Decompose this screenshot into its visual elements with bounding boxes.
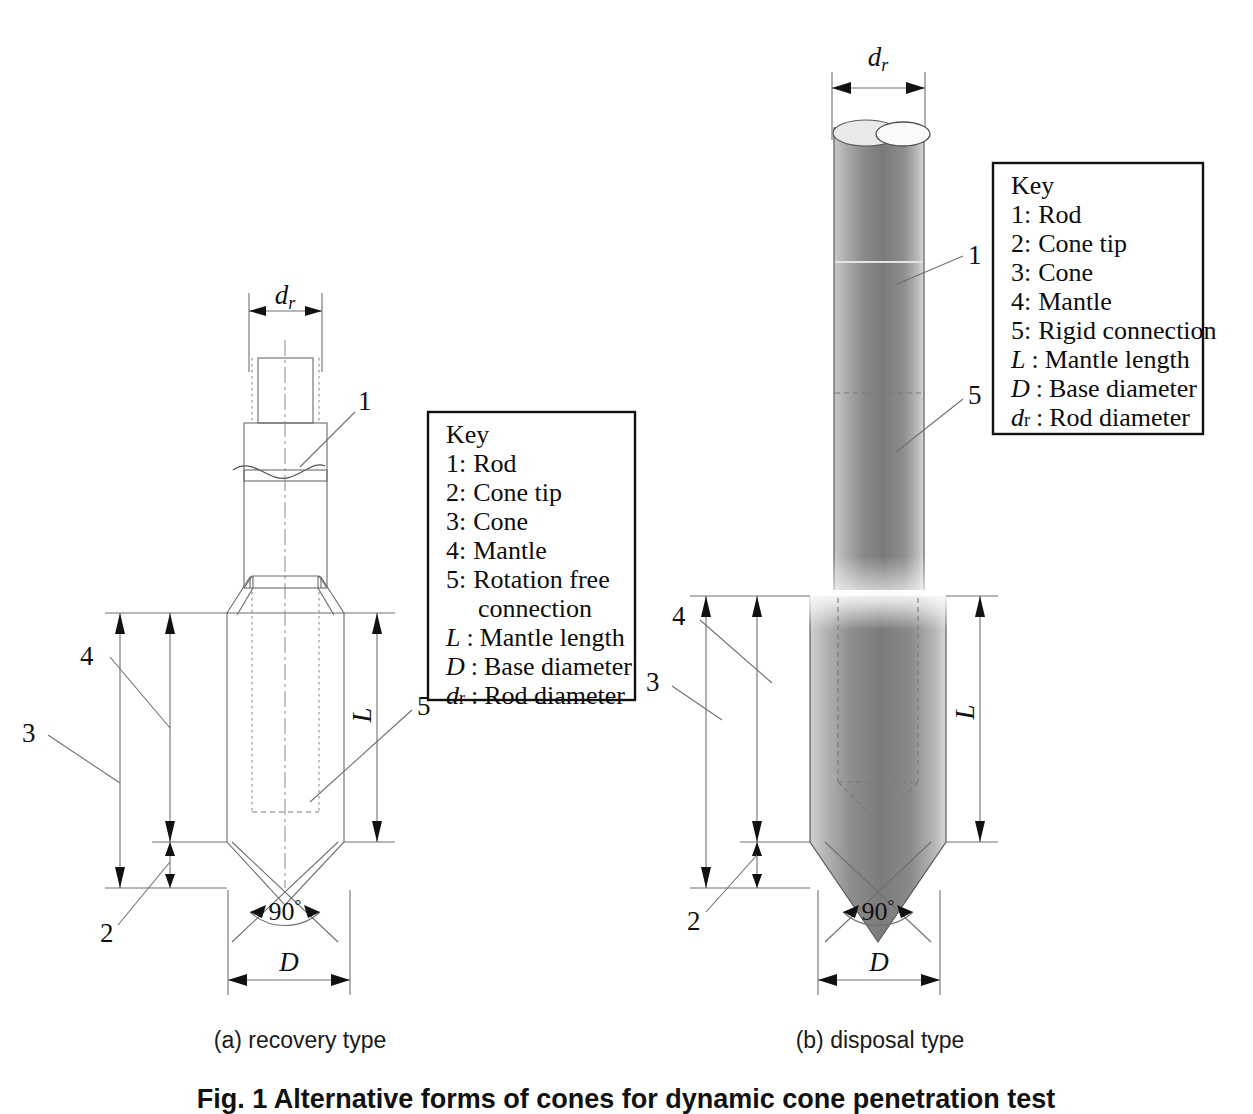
callout-label-4-b: 4 [672,601,686,631]
key-entry-b-1: 1:Rod [1011,200,1082,229]
svg-text:D:Base diameter: D:Base diameter [445,652,632,681]
callout-label-1-a: 1 [358,386,372,416]
callout-label-3-b: 3 [646,667,660,697]
svg-text:1:Rod: 1:Rod [446,449,517,478]
rod-top-ellipse-right-b [876,122,930,146]
figure-container: dr [0,0,1253,1114]
callout-label-5-b: 5 [968,380,982,410]
label-base-diameter-a: D [278,947,299,977]
svg-text:D:Base diameter: D:Base diameter [1010,374,1197,403]
label-mantle-length-b: L [950,704,980,720]
key-entry-a-dr: dr:Rod diameter [446,681,625,710]
figure-caption: Fig. 1 Alternative forms of cones for dy… [197,1084,1056,1114]
subcaption-b: (b) disposal type [796,1027,965,1053]
callout-label-1-b: 1 [968,240,982,270]
key-entry-b-5: 5:Rigid connection [1011,316,1217,345]
key-entry-a-L: L:Mantle length [445,623,625,652]
svg-text:2:Cone tip: 2:Cone tip [446,478,562,507]
svg-text:5:Rigid connection: 5:Rigid connection [1011,316,1217,345]
callout-label-3-a: 3 [22,718,36,748]
key-title-a: Key [446,420,489,449]
key-entry-b-L: L:Mantle length [1010,345,1190,374]
key-entry-b-3: 3:Cone [1011,258,1093,287]
key-entry-b-dr: dr:Rod diameter [1011,403,1190,432]
callout-label-2-a: 2 [100,918,114,948]
svg-text:4:Mantle: 4:Mantle [446,536,547,565]
svg-text:4:Mantle: 4:Mantle [1011,287,1112,316]
key-entry-b-4: 4:Mantle [1011,287,1112,316]
svg-text:1:Rod: 1:Rod [1011,200,1082,229]
key-entry-a-1: 1:Rod [446,449,517,478]
svg-text:dr:Rod diameter: dr:Rod diameter [1011,403,1190,432]
svg-text:2:Cone tip: 2:Cone tip [1011,229,1127,258]
svg-text:3:Cone: 3:Cone [1011,258,1093,287]
key-entry-a-D: D:Base diameter [445,652,632,681]
key-entry-a-2: 2:Cone tip [446,478,562,507]
label-mantle-length-a: L [347,707,377,723]
svg-text:3:Cone: 3:Cone [446,507,528,536]
key-entry-a-3: 3:Cone [446,507,528,536]
callout-label-4-a: 4 [80,641,94,671]
label-base-diameter-b: D [868,947,889,977]
key-title-b: Key [1011,171,1054,200]
svg-text:L:Mantle length: L:Mantle length [445,623,625,652]
key-entry-a-4: 4:Mantle [446,536,547,565]
svg-text:connection: connection [478,594,592,623]
svg-text:dr:Rod diameter: dr:Rod diameter [446,681,625,710]
rod-upper-b [832,120,930,616]
key-box-a: Key 1:Rod 2:Cone tip 3:Cone 4:Mantle [428,412,635,710]
callout-label-2-b: 2 [687,906,701,936]
key-box-b: Key 1:Rod 2:Cone tip 3:Cone 4:Mantle [993,163,1217,434]
key-entry-b-2: 2:Cone tip [1011,229,1127,258]
key-entry-b-D: D:Base diameter [1010,374,1197,403]
svg-text:L:Mantle length: L:Mantle length [1010,345,1190,374]
subcaption-a: (a) recovery type [214,1027,387,1053]
